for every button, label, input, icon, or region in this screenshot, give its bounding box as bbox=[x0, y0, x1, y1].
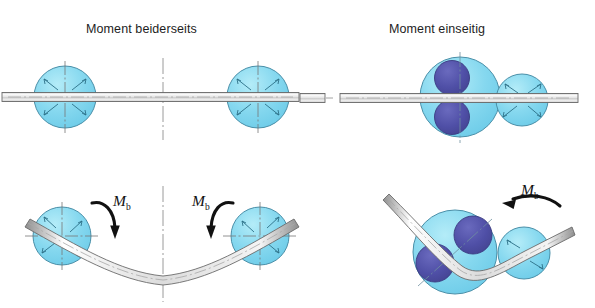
moment-label-left-bottom-left: Mb bbox=[113, 192, 131, 212]
moment-subscript: b bbox=[205, 202, 210, 212]
panel-left-top bbox=[2, 58, 299, 140]
moment-label-right-bottom: Mb bbox=[521, 181, 539, 201]
roller-assembly-large bbox=[413, 210, 497, 294]
panel-left-bottom bbox=[25, 186, 299, 302]
inner-disc-lower bbox=[435, 100, 470, 135]
panel-right-top bbox=[300, 52, 578, 143]
diagram-canvas: Moment beiderseits Moment einseitig Mb M… bbox=[0, 0, 595, 308]
inner-disc-upper bbox=[435, 61, 470, 96]
moment-arrow-right bbox=[206, 202, 233, 239]
moment-subscript: b bbox=[534, 191, 539, 201]
moment-label-left-bottom-right: Mb bbox=[192, 192, 210, 212]
bar-straight bbox=[340, 94, 578, 103]
moment-symbol: M bbox=[521, 181, 534, 198]
bar-straight bbox=[2, 93, 299, 102]
moment-symbol: M bbox=[113, 192, 126, 209]
moment-symbol: M bbox=[192, 192, 205, 209]
moment-subscript: b bbox=[126, 202, 131, 212]
diagram-svg bbox=[0, 0, 595, 308]
panel-right-bottom bbox=[383, 194, 575, 294]
panel-left-title: Moment beiderseits bbox=[86, 22, 197, 36]
panel-right-title: Moment einseitig bbox=[389, 22, 485, 36]
bar-stub-left bbox=[300, 94, 336, 103]
